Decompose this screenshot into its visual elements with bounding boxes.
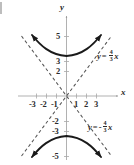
asymptote-negative-fraction: 4 3 bbox=[103, 120, 107, 134]
x-axis-label: x bbox=[121, 88, 126, 97]
hyperbola-graph-figure: y x 5 3 2 -2 -3 -5 -3 -2 -1 1 2 3 y = 4 … bbox=[0, 0, 134, 165]
y-tick-label--2: -2 bbox=[52, 117, 58, 126]
asymptote-positive-x: x bbox=[114, 52, 118, 61]
asymptote-positive-denominator: 3 bbox=[109, 56, 113, 62]
y-tick-label-2: 2 bbox=[56, 67, 60, 76]
asymptote-negative-equals: = bbox=[93, 123, 98, 132]
y-tick-label--5: -5 bbox=[52, 152, 58, 161]
plot-canvas bbox=[0, 0, 134, 165]
x-tick-label-3: 3 bbox=[94, 100, 98, 109]
x-tick-label-2: 2 bbox=[84, 100, 88, 109]
x-tick-label-1: 1 bbox=[74, 100, 78, 109]
x-tick-label--3: -3 bbox=[29, 100, 35, 109]
y-tick-label-3: 3 bbox=[56, 57, 60, 66]
asymptote-positive-equals: = bbox=[102, 52, 107, 61]
y-axis-label: y bbox=[60, 3, 64, 12]
asymptote-negative-label: y = - 4 3 x bbox=[88, 120, 112, 134]
asymptote-negative-sign: - bbox=[99, 123, 102, 132]
asymptote-negative-x: x bbox=[108, 123, 112, 132]
asymptote-negative-var: y bbox=[88, 123, 92, 132]
x-tick-label--1: -1 bbox=[51, 100, 57, 109]
y-tick-label--3: -3 bbox=[52, 127, 58, 136]
y-tick-label-5: 5 bbox=[56, 32, 60, 41]
x-tick-label--2: -2 bbox=[40, 100, 46, 109]
asymptote-positive-fraction: 4 3 bbox=[109, 49, 113, 63]
asymptote-positive-label: y = 4 3 x bbox=[97, 49, 118, 63]
asymptote-negative-denominator: 3 bbox=[103, 127, 107, 133]
asymptote-positive-var: y bbox=[97, 52, 101, 61]
